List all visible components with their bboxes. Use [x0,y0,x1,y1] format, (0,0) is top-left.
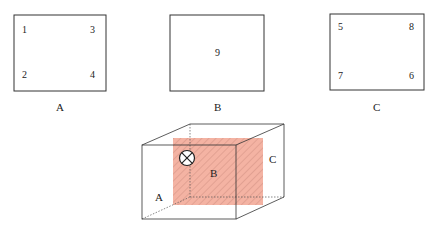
panel-a-num-bottom-left: 2 [22,69,27,80]
shaded-face-b [173,138,263,205]
panel-b-num-center: 9 [215,47,220,58]
cube-label-b: B [210,167,217,179]
panel-a-num-top-left: 1 [22,24,27,35]
panel-b-label: B [214,101,221,113]
panel-a: 1 3 2 4 A [14,15,106,113]
cube-diagram: B C A [142,124,284,219]
panel-c-num-bottom-left: 7 [338,70,343,81]
panel-a-label: A [56,101,64,113]
panel-c: 5 8 7 6 C [330,14,424,113]
panel-c-num-bottom-right: 6 [409,70,414,81]
circle-x-icon [180,151,195,166]
cube-label-c: C [269,153,276,165]
panel-c-num-top-right: 8 [409,21,414,32]
panel-a-num-top-right: 3 [90,24,95,35]
panel-c-num-top-left: 5 [338,21,343,32]
panel-c-label: C [373,101,380,113]
diagram-canvas: 1 3 2 4 A 9 B 5 8 7 6 C [0,0,436,229]
panel-a-num-bottom-right: 4 [90,69,95,80]
panel-b: 9 B [170,15,264,113]
cube-label-a: A [155,191,163,203]
